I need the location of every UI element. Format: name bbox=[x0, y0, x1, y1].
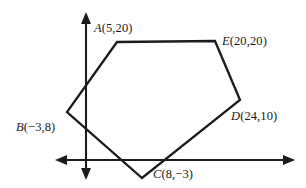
vertex-label-a-coords: (5,20) bbox=[102, 21, 133, 35]
x-axis-right-arrow-icon bbox=[283, 155, 295, 165]
y-axis-down-arrow-icon bbox=[81, 168, 91, 180]
vertex-label-d-coords: (24,10) bbox=[240, 109, 277, 123]
x-axis-left-arrow-icon bbox=[55, 155, 67, 165]
geometry-figure: A(5,20) E(20,20) D(24,10) B(−3,8) C(8,−3… bbox=[0, 0, 306, 188]
y-axis-up-arrow-icon bbox=[81, 12, 91, 24]
horizontal-axis bbox=[55, 155, 295, 165]
vertex-label-e-coords: (20,20) bbox=[230, 34, 267, 48]
vertex-label-d: D(24,10) bbox=[231, 110, 277, 123]
vertex-label-d-letter: D bbox=[231, 109, 240, 123]
vertex-label-c: C(8,−3) bbox=[153, 168, 193, 181]
vertex-label-b: B(−3,8) bbox=[16, 121, 55, 134]
vertex-label-b-coords: (−3,8) bbox=[24, 120, 56, 134]
vertex-label-e-letter: E bbox=[222, 34, 230, 48]
vertex-label-b-letter: B bbox=[16, 120, 24, 134]
vertical-axis bbox=[81, 12, 91, 180]
vertex-label-c-coords: (8,−3) bbox=[161, 167, 193, 181]
polygon-abcde bbox=[67, 41, 240, 178]
vertex-label-a: A(5,20) bbox=[94, 22, 133, 35]
figure-canvas bbox=[0, 0, 306, 188]
vertex-label-e: E(20,20) bbox=[222, 35, 267, 48]
vertex-label-a-letter: A bbox=[94, 21, 102, 35]
